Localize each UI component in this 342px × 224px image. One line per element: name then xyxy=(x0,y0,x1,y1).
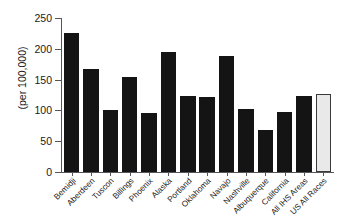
bar-nashville xyxy=(238,109,253,172)
bar-alaska xyxy=(161,52,176,172)
y-tick-mark xyxy=(55,172,61,173)
y-tick-mark xyxy=(55,80,61,81)
x-tick-mark xyxy=(91,173,92,176)
x-tick-mark xyxy=(227,173,228,176)
bar-california xyxy=(277,112,292,172)
x-tick-mark xyxy=(110,173,111,176)
plot-area xyxy=(62,18,333,172)
bar-aberdeen xyxy=(83,69,98,172)
bar-albuquerque xyxy=(258,130,273,172)
x-tick-mark xyxy=(246,173,247,176)
chart-figure: (per 100,000) 050100150200250 BemidjiAbe… xyxy=(0,0,342,224)
x-tick-mark xyxy=(149,173,150,176)
y-tick-mark xyxy=(55,141,61,142)
bar-oklahoma xyxy=(199,97,214,172)
y-tick-label: 250 xyxy=(26,13,52,24)
x-tick-mark xyxy=(168,173,169,176)
bar-phoenix xyxy=(141,113,156,172)
bar-portland xyxy=(180,96,195,172)
x-tick-mark xyxy=(304,173,305,176)
y-tick-label: 100 xyxy=(26,105,52,116)
x-tick-mark xyxy=(285,173,286,176)
y-tick-label: 200 xyxy=(26,44,52,55)
bar-tuscon xyxy=(103,110,118,172)
x-tick-mark xyxy=(207,173,208,176)
bar-billings xyxy=(122,77,137,172)
bar-bemidji xyxy=(64,33,79,172)
x-tick-mark xyxy=(265,173,266,176)
bar-navajo xyxy=(219,56,234,172)
y-tick-label: 150 xyxy=(26,74,52,85)
bar-us-all-races xyxy=(316,94,331,172)
x-axis-spine xyxy=(61,172,334,173)
bar-all-ihs-areas xyxy=(296,96,311,172)
x-tick-mark xyxy=(72,173,73,176)
x-tick-mark xyxy=(130,173,131,176)
y-tick-label: 0 xyxy=(26,167,52,178)
x-tick-mark xyxy=(323,173,324,176)
y-tick-mark xyxy=(55,49,61,50)
y-tick-label: 50 xyxy=(26,136,52,147)
x-tick-mark xyxy=(188,173,189,176)
y-tick-mark xyxy=(55,110,61,111)
y-tick-mark xyxy=(55,18,61,19)
